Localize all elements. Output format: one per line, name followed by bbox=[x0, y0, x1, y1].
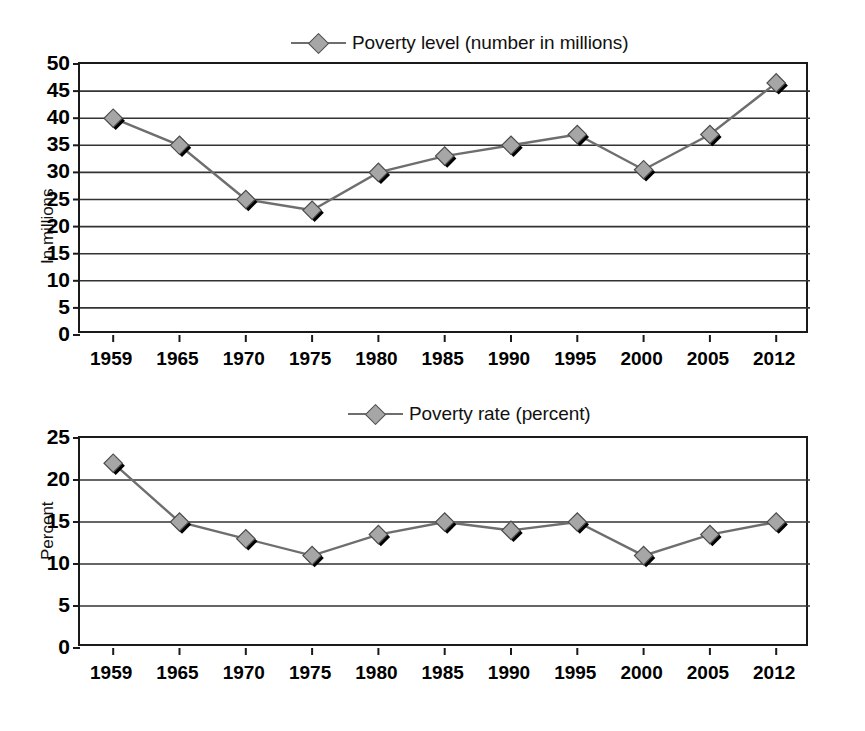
x-tick-label: 1995 bbox=[554, 663, 596, 682]
legend-diamond-marker-icon bbox=[365, 403, 386, 424]
y-tick-label: 5 bbox=[58, 594, 70, 615]
y-tick-label: 5 bbox=[58, 295, 70, 316]
x-tick-label: 1975 bbox=[289, 663, 331, 682]
y-tick-label: 30 bbox=[47, 160, 70, 181]
gridlines-bottom bbox=[80, 480, 810, 606]
legend-poverty-rate: Poverty rate (percent) bbox=[348, 401, 591, 427]
y-tick-label: 10 bbox=[47, 552, 70, 573]
plot-svg-bottom bbox=[80, 438, 810, 648]
y-tick-label: 10 bbox=[47, 268, 70, 289]
x-axis-ticks-bottom bbox=[113, 648, 776, 655]
legend-poverty-level: Poverty level (number in millions) bbox=[291, 30, 628, 56]
legend-line-left bbox=[348, 413, 366, 415]
legend-diamond-marker-icon bbox=[308, 32, 329, 53]
x-tick-label: 1990 bbox=[488, 663, 530, 682]
x-tick-label: 1980 bbox=[355, 349, 397, 368]
y-tick-label: 40 bbox=[47, 106, 70, 127]
legend-label: Poverty level (number in millions) bbox=[352, 32, 628, 54]
y-tick-label: 0 bbox=[58, 323, 70, 344]
data-markers-poverty-rate bbox=[104, 454, 788, 567]
x-tick-label: 1975 bbox=[289, 349, 331, 368]
x-tick-label: 2000 bbox=[620, 663, 662, 682]
plot-svg-top bbox=[80, 64, 810, 335]
gridlines-top bbox=[80, 91, 810, 308]
y-tick-label: 45 bbox=[47, 79, 70, 100]
y-tick-label: 0 bbox=[58, 636, 70, 657]
y-tick-label: 15 bbox=[47, 510, 70, 531]
x-tick-label: 1990 bbox=[488, 349, 530, 368]
x-tick-label: 1985 bbox=[422, 349, 464, 368]
series-line-poverty-rate bbox=[113, 463, 776, 555]
y-axis-ticks-top bbox=[73, 64, 80, 335]
plot-area-bottom bbox=[78, 436, 808, 646]
x-axis-ticks-top bbox=[113, 335, 776, 342]
x-tick-label: 1970 bbox=[223, 349, 265, 368]
chart-poverty-level: Poverty level (number in millions) In mi… bbox=[0, 0, 865, 390]
y-tick-label: 35 bbox=[47, 133, 70, 154]
x-tick-label: 1959 bbox=[90, 349, 132, 368]
x-tick-label: 2012 bbox=[753, 663, 795, 682]
x-tick-label: 1959 bbox=[90, 663, 132, 682]
x-tick-label: 1965 bbox=[156, 663, 198, 682]
legend-line-left bbox=[291, 42, 309, 44]
x-tick-label: 2005 bbox=[687, 349, 729, 368]
x-tick-label: 1985 bbox=[422, 663, 464, 682]
legend-label: Poverty rate (percent) bbox=[409, 403, 591, 425]
y-tick-label: 50 bbox=[47, 52, 70, 73]
y-tick-label: 20 bbox=[47, 214, 70, 235]
y-axis-ticks-bottom bbox=[73, 438, 80, 648]
x-tick-label: 1980 bbox=[355, 663, 397, 682]
plot-area-top bbox=[78, 62, 808, 333]
y-tick-label: 20 bbox=[47, 468, 70, 489]
x-tick-label: 2000 bbox=[620, 349, 662, 368]
y-tick-label: 15 bbox=[47, 241, 70, 262]
x-tick-label: 1970 bbox=[223, 663, 265, 682]
legend-line-right bbox=[385, 413, 403, 415]
chart-poverty-rate: Poverty rate (percent) Percent 25 20 15 … bbox=[0, 388, 865, 731]
x-tick-label: 1995 bbox=[554, 349, 596, 368]
y-tick-label: 25 bbox=[47, 187, 70, 208]
x-tick-label: 2012 bbox=[753, 349, 795, 368]
legend-line-right bbox=[328, 42, 346, 44]
x-tick-label: 2005 bbox=[687, 663, 729, 682]
x-tick-label: 1965 bbox=[156, 349, 198, 368]
y-tick-label: 25 bbox=[47, 426, 70, 447]
